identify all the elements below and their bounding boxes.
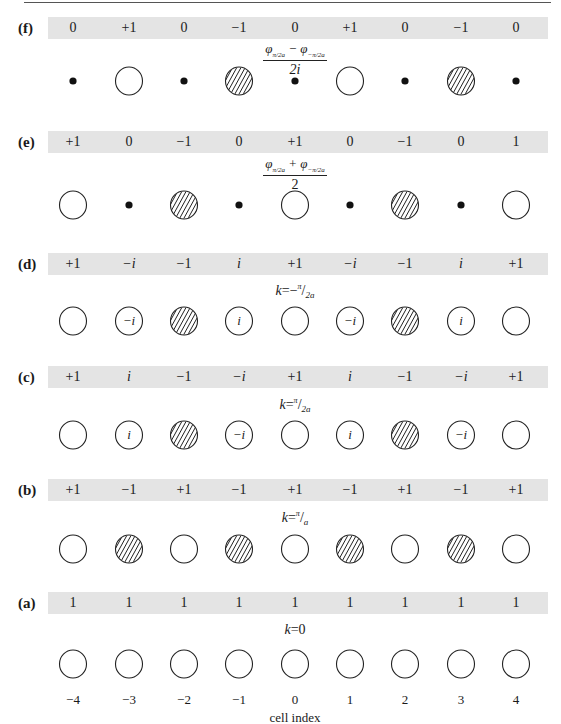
negative-atom-hatched-icon <box>164 185 204 225</box>
panel-label-d: (d) <box>18 253 36 275</box>
phase-value: +1 <box>164 479 204 501</box>
phase-value: i <box>109 366 149 388</box>
x-axis-label: cell index <box>245 710 345 724</box>
phase-value: +1 <box>275 253 315 275</box>
phase-value: −1 <box>164 366 204 388</box>
phase-value: −1 <box>219 479 259 501</box>
negative-atom-hatched-icon <box>385 185 425 225</box>
panel-a-caption: k=0 <box>220 622 370 638</box>
positive-atom-open-icon <box>53 529 93 569</box>
positive-atom-open-icon <box>109 61 149 101</box>
phase-value: 0 <box>164 17 204 39</box>
phase-value: +1 <box>109 17 149 39</box>
phase-value: +1 <box>53 131 93 153</box>
positive-atom-open-icon <box>496 415 536 455</box>
phase-value: 1 <box>496 592 536 614</box>
cell-index-tick: −2 <box>169 692 199 708</box>
atom-phase-label: i <box>109 415 149 455</box>
phase-value: 0 <box>275 17 315 39</box>
top-rule <box>24 2 551 3</box>
positive-atom-open-icon <box>53 185 93 225</box>
phase-value: 0 <box>109 131 149 153</box>
phase-value: 0 <box>219 131 259 153</box>
phase-value: 0 <box>53 17 93 39</box>
phase-value: −1 <box>441 479 481 501</box>
positive-atom-open-icon: i <box>109 415 149 455</box>
cell-index-tick: 4 <box>501 692 531 708</box>
phase-value: +1 <box>53 366 93 388</box>
phase-band-f: 0+10−10+10−10 <box>48 17 548 39</box>
phase-band-c: +1i−1−i+1i−1−i+1 <box>48 366 548 388</box>
positive-atom-open-icon <box>496 185 536 225</box>
phase-band-d: +1−i−1i+1−i−1i+1 <box>48 253 548 275</box>
positive-atom-open-icon <box>385 529 425 569</box>
phase-value: −1 <box>385 253 425 275</box>
positive-atom-open-icon: i <box>219 301 259 341</box>
node-dot-icon <box>385 61 425 101</box>
cell-index-tick: −4 <box>58 692 88 708</box>
fraction-denominator: 2i <box>235 62 355 78</box>
atom-phase-label: i <box>441 301 481 341</box>
fraction-numerator: φπ/2a + φ−π/2a <box>263 156 326 176</box>
phase-value: −i <box>219 366 259 388</box>
node-dot-icon <box>441 185 481 225</box>
atom-phase-label: i <box>219 301 259 341</box>
panel-label-c: (c) <box>18 366 35 388</box>
phase-value: 0 <box>330 131 370 153</box>
panel-e-caption: φπ/2a + φ−π/2a 2 <box>235 156 355 193</box>
positive-atom-open-icon <box>53 644 93 684</box>
phase-value: −1 <box>441 17 481 39</box>
phase-value: 1 <box>109 592 149 614</box>
phase-value: i <box>441 253 481 275</box>
atom-phase-label: i <box>330 415 370 455</box>
phase-value: +1 <box>496 366 536 388</box>
phase-value: +1 <box>330 17 370 39</box>
positive-atom-open-icon <box>441 644 481 684</box>
phase-value: 1 <box>496 131 536 153</box>
phase-band-e: +10−10+10−101 <box>48 131 548 153</box>
negative-atom-hatched-icon <box>164 415 204 455</box>
atom-phase-label: −i <box>330 301 370 341</box>
positive-atom-open-icon <box>275 301 315 341</box>
node-dot-icon <box>109 185 149 225</box>
positive-atom-open-icon <box>164 529 204 569</box>
cell-index-tick: 3 <box>446 692 476 708</box>
phase-value: 1 <box>53 592 93 614</box>
fraction-denominator: 2 <box>235 177 355 193</box>
phase-value: +1 <box>275 479 315 501</box>
positive-atom-open-icon <box>53 415 93 455</box>
negative-atom-hatched-icon <box>330 529 370 569</box>
phase-value: i <box>330 366 370 388</box>
phase-value: −1 <box>330 479 370 501</box>
panel-label-a: (a) <box>18 592 36 614</box>
negative-atom-hatched-icon <box>441 529 481 569</box>
phase-value: 0 <box>441 131 481 153</box>
positive-atom-open-icon <box>109 644 149 684</box>
fraction-numerator: φπ/2a − φ−π/2a <box>263 41 326 61</box>
phase-value: i <box>219 253 259 275</box>
panel-b-caption: k=π/a <box>220 509 370 527</box>
cell-index-tick: −1 <box>224 692 254 708</box>
phase-value: 1 <box>441 592 481 614</box>
positive-atom-open-icon <box>385 644 425 684</box>
negative-atom-hatched-icon <box>385 301 425 341</box>
phase-value: 1 <box>219 592 259 614</box>
positive-atom-open-icon <box>496 644 536 684</box>
panel-label-b: (b) <box>18 479 36 501</box>
cell-index-tick: 1 <box>335 692 365 708</box>
phase-value: −i <box>109 253 149 275</box>
positive-atom-open-icon: −i <box>441 415 481 455</box>
cell-index-tick: 0 <box>280 692 310 708</box>
phase-value: 0 <box>385 17 425 39</box>
negative-atom-hatched-icon <box>219 529 259 569</box>
negative-atom-hatched-icon <box>385 415 425 455</box>
positive-atom-open-icon <box>275 529 315 569</box>
phase-value: −i <box>330 253 370 275</box>
node-dot-icon <box>496 61 536 101</box>
phase-value: 0 <box>496 17 536 39</box>
positive-atom-open-icon: −i <box>330 301 370 341</box>
cell-index-tick: −3 <box>114 692 144 708</box>
positive-atom-open-icon: −i <box>109 301 149 341</box>
atom-phase-label: −i <box>441 415 481 455</box>
positive-atom-open-icon <box>496 301 536 341</box>
